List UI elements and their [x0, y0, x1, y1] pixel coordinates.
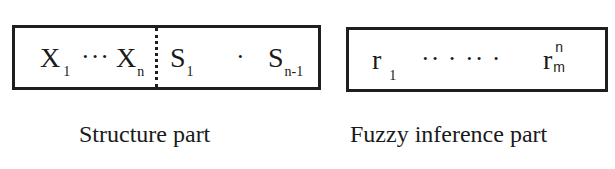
r1-symbol: r1	[372, 46, 396, 74]
structure-part-box: X1 ··· Xn S1 · Sn-1	[12, 25, 321, 90]
structure-part-label: Structure part	[79, 122, 210, 146]
s1-symbol: S1	[170, 44, 194, 72]
x1-symbol: X1	[40, 44, 70, 72]
fuzzy-inference-part-box: r1 ·· · ·· · rnm	[346, 27, 608, 92]
fuzzy-inference-part-label: Fuzzy inference part	[350, 122, 547, 146]
r-ellipsis: ·· · ·· ·	[421, 46, 501, 72]
x-ellipsis: ···	[81, 44, 110, 70]
dotted-divider	[155, 28, 158, 87]
s-middle-dot: ·	[236, 44, 246, 70]
sn-1-symbol: Sn-1	[268, 44, 303, 72]
xn-symbol: Xn	[116, 44, 144, 72]
rmn-symbol: rnm	[543, 46, 566, 74]
